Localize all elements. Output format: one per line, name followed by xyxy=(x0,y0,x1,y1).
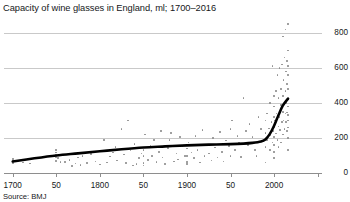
x-axis-label-1850: 50 xyxy=(139,181,148,190)
x-axis-tick-1950 xyxy=(231,173,232,177)
x-axis-tick-1750 xyxy=(56,173,57,177)
source-note: Source: BMJ xyxy=(3,192,46,201)
y-axis-label-400: 400 xyxy=(326,99,348,107)
x-axis-tick-1700 xyxy=(13,173,14,177)
x-axis-tick-1850 xyxy=(143,173,144,177)
x-axis-label-1750: 50 xyxy=(52,181,61,190)
x-axis-label-1800: 1800 xyxy=(91,181,109,190)
x-axis-tick-1900 xyxy=(187,173,188,177)
x-axis-label-1950: 50 xyxy=(226,181,235,190)
x-axis-tick-2000 xyxy=(274,173,275,177)
trend-line-path xyxy=(13,99,288,162)
y-axis-label-600: 600 xyxy=(326,64,348,72)
x-axis-tick-1800 xyxy=(100,173,101,177)
chart-title: Capacity of wine glasses in England, ml;… xyxy=(3,2,216,14)
y-axis-label-200: 200 xyxy=(326,134,348,142)
y-axis-label-800: 800 xyxy=(326,29,348,37)
plot-area xyxy=(4,19,322,173)
y-axis-label-0: 0 xyxy=(326,169,348,177)
trend-line xyxy=(4,19,322,173)
x-axis-label-1900: 1900 xyxy=(178,181,196,190)
chart-root: Capacity of wine glasses in England, ml;… xyxy=(0,0,350,202)
x-axis-tick-2050 xyxy=(318,173,319,177)
x-axis-label-2000: 2000 xyxy=(265,181,283,190)
x-axis-label-1700: 1700 xyxy=(4,181,22,190)
